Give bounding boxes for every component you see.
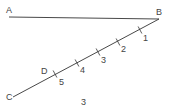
geometry-diagram: A B C D 1 2 3 4 5 3 (0, 0, 169, 108)
segments (9, 17, 159, 97)
segment-bc (13, 19, 159, 97)
tick-label-2: 2 (121, 44, 126, 54)
point-label-d: D (41, 66, 48, 76)
point-label-b: B (156, 7, 162, 17)
figure-number-label: 3 (81, 97, 86, 107)
labels: A B C D 1 2 3 4 5 3 (6, 5, 162, 107)
tick-mark-4 (75, 59, 79, 66)
tick-label-3: 3 (101, 55, 106, 65)
tick-label-1: 1 (143, 33, 148, 43)
tick-label-4: 4 (80, 65, 85, 75)
point-label-a: A (6, 5, 12, 15)
tick-label-5: 5 (59, 77, 64, 87)
point-label-c: C (6, 92, 13, 102)
segment-ab (9, 17, 159, 19)
